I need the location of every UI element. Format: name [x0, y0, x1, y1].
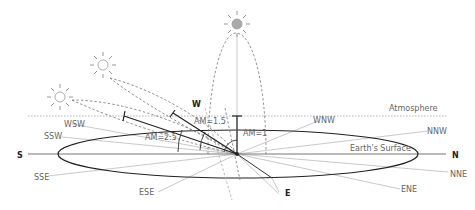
- air-mass-diagram: Atmosphere Earth's Surface AM=1 AM=1.5 A…: [0, 0, 475, 210]
- ene-label: ENE: [401, 185, 417, 194]
- nne-label: NNE: [450, 170, 467, 179]
- atmosphere-label: Atmosphere: [389, 104, 438, 113]
- sun-zenith-icon: [224, 11, 250, 37]
- observer-point: [235, 152, 239, 156]
- wsw-label: WSW: [64, 120, 85, 129]
- am15-label: AM=1.5: [194, 117, 226, 126]
- wnw-label: WNW: [313, 116, 335, 125]
- south-label: S: [17, 151, 23, 160]
- west-label: W: [192, 100, 201, 109]
- ssw-label: SSW: [44, 132, 62, 141]
- ese-label: ESE: [139, 188, 154, 197]
- east-ray: [272, 178, 279, 192]
- sun-am25-icon: [47, 84, 73, 110]
- am25-label: AM=2.5: [145, 133, 177, 142]
- east-label: E: [285, 189, 290, 198]
- north-label: N: [452, 151, 459, 160]
- sse-label: SSE: [34, 173, 49, 182]
- nnw-label: NNW: [427, 127, 447, 136]
- sun-am15-icon: [90, 52, 116, 78]
- am1-label: AM=1: [243, 129, 267, 138]
- earth-surface-label: Earth's Surface: [350, 144, 411, 153]
